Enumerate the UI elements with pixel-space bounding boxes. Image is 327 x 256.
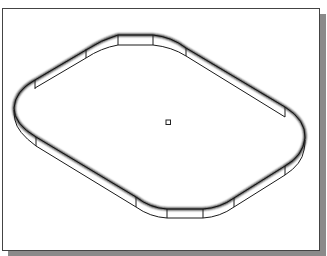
ring-bottom-edge: [14, 110, 305, 218]
ring-inner-edge: [35, 45, 285, 117]
isometric-ring-drawing: [0, 0, 327, 256]
ring-top-edge: [14, 35, 305, 209]
center-point-marker: [166, 120, 171, 125]
